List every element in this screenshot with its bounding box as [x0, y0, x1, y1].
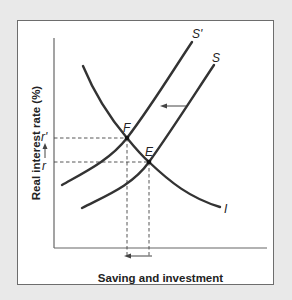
tick-r: r: [42, 159, 47, 173]
shift-left-arrow-icon: [160, 104, 186, 109]
y-axis-label: Real interest rate (%): [30, 86, 42, 200]
label-s-prime: S': [192, 27, 203, 41]
label-i: I: [224, 202, 228, 216]
chart-canvas: S' S I F E r' r: [0, 0, 292, 300]
point-e-dot: [147, 160, 152, 165]
rate-up-arrow-icon: [43, 143, 48, 158]
label-s: S: [212, 51, 220, 65]
x-axis-label: Saving and investment: [54, 272, 267, 284]
point-f-dot: [125, 136, 130, 141]
label-e: E: [145, 145, 154, 159]
tick-r-prime: r': [41, 130, 48, 144]
quantity-left-arrow-icon: [124, 254, 152, 259]
label-f: F: [123, 121, 131, 135]
curve-s: [82, 65, 214, 208]
